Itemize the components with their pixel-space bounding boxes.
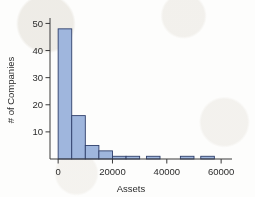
bars-group [58, 29, 214, 159]
histogram-chart: 1020304050 0200004000060000 # of Compani… [0, 0, 255, 197]
y-tick-label: 20 [32, 99, 43, 110]
x-tick-label: 60000 [208, 166, 234, 177]
x-tick-label: 0 [56, 166, 61, 177]
y-axis-label: # of Companies [5, 56, 16, 123]
y-tick-label: 50 [32, 18, 43, 29]
histogram-bar [85, 145, 99, 159]
x-axis-label: Assets [117, 183, 146, 194]
x-axis: 0200004000060000 [50, 159, 234, 177]
y-tick-label: 30 [32, 72, 43, 83]
x-tick-label: 20000 [99, 166, 125, 177]
x-tick-label: 40000 [154, 166, 180, 177]
histogram-bar [99, 151, 113, 159]
y-tick-label: 40 [32, 45, 43, 56]
histogram-bar [58, 29, 72, 159]
y-axis: 1020304050 [32, 18, 50, 159]
y-tick-label: 10 [32, 126, 43, 137]
histogram-bar [72, 116, 86, 159]
